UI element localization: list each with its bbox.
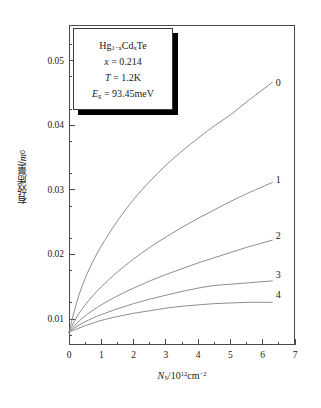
x-tick-2: 2 <box>131 350 136 360</box>
temperature-value: = 1.2K <box>113 72 141 83</box>
x-axis-title-unit-exp: −2 <box>199 370 206 377</box>
y-tick-0.01: 0.01 <box>30 314 64 324</box>
curve-2 <box>69 243 263 332</box>
data-curves <box>69 82 273 332</box>
y-tick-0.05: 0.05 <box>30 56 64 66</box>
curve-leader-2 <box>263 240 273 243</box>
y-tick-0.02: 0.02 <box>30 249 64 259</box>
temperature-var: T <box>105 72 111 83</box>
curve-label-3: 3 <box>276 269 281 280</box>
x-axis-title-unit: cm <box>187 370 199 381</box>
curve-leader-1 <box>263 182 273 186</box>
y-axis-title-var: m <box>17 154 28 161</box>
annotation-material: Hg1−xCdxTe <box>99 38 146 54</box>
y-tick-0.04: 0.04 <box>30 120 64 130</box>
bandgap-value: = 93.45meV <box>104 88 154 99</box>
x-tick-0: 0 <box>67 350 72 360</box>
annotation-bandgap: Eg = 93.45meV <box>92 86 154 102</box>
annotation-composition: x = 0.214 <box>104 54 142 70</box>
material-cd: Cd <box>122 40 134 51</box>
x-axis-title-rest: /10 <box>168 370 181 381</box>
y-axis-title-cn: 有效质量/ <box>17 161 28 204</box>
y-tick-0.03: 0.03 <box>30 185 64 195</box>
curve-label-1: 1 <box>276 174 281 185</box>
x-tick-6: 6 <box>260 350 265 360</box>
curve-label-2: 2 <box>276 230 281 241</box>
bandgap-sub: g <box>98 93 101 100</box>
y-axis-title-sub: 0 <box>19 150 26 154</box>
annotation-temperature: T = 1.2K <box>105 70 141 86</box>
curve-leader-0 <box>263 82 273 90</box>
x-axis-title: NS/1012cm−2 <box>69 370 295 381</box>
curve-label-4: 4 <box>276 289 281 300</box>
curve-leader-3 <box>263 281 273 282</box>
x-tick-3: 3 <box>163 350 168 360</box>
curve-0 <box>69 90 263 332</box>
composition-var: x <box>104 56 108 67</box>
material-te: Te <box>137 40 147 51</box>
x-tick-7: 7 <box>293 350 298 360</box>
x-tick-1: 1 <box>99 350 104 360</box>
x-tick-5: 5 <box>228 350 233 360</box>
material-hg: Hg <box>99 40 111 51</box>
curve-1 <box>69 187 263 332</box>
y-axis-title: 有效质量/m0 <box>18 150 34 204</box>
material-sub-1x: 1−x <box>112 44 122 51</box>
figure-container: 0.010.020.030.040.05 01234567 有效质量/m0 NS… <box>0 0 321 408</box>
composition-value: = 0.214 <box>111 56 142 67</box>
annotation-box: Hg1−xCdxTe x = 0.214 T = 1.2K Eg = 93.45… <box>73 28 173 110</box>
x-tick-4: 4 <box>196 350 201 360</box>
curve-label-0: 0 <box>276 77 281 88</box>
